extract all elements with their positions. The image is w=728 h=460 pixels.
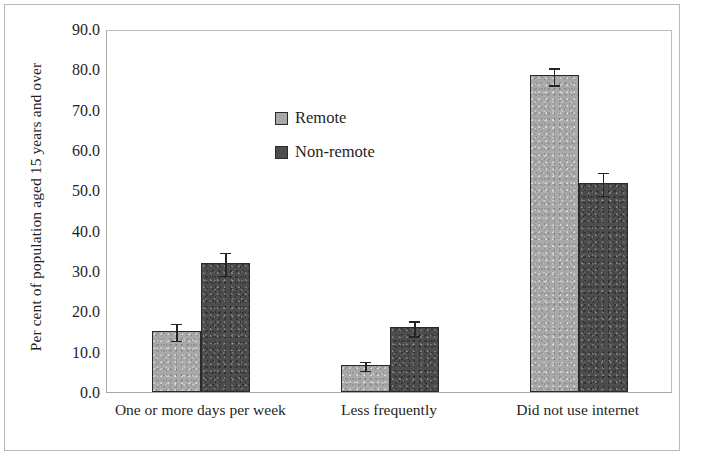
bars-layer: [107, 31, 671, 392]
error-bar-cap-top: [220, 253, 231, 255]
y-axis-tick-label: 60.0: [44, 143, 100, 159]
x-axis-tick-labels: One or more days per weekLess frequently…: [106, 399, 672, 459]
error-bar-cap-top: [409, 321, 420, 323]
y-axis-tick-label: 50.0: [44, 183, 100, 199]
legend-swatch-remote: [275, 112, 288, 125]
error-bar-cap-bottom: [549, 85, 560, 87]
x-axis-tick-label: Less frequently: [294, 399, 484, 420]
error-bar-cap-bottom: [360, 371, 371, 373]
legend-swatch-nonremote: [275, 146, 288, 159]
y-axis-tick-label: 40.0: [44, 224, 100, 240]
bar-remote: [530, 75, 579, 392]
legend-label: Non-remote: [295, 144, 375, 161]
y-axis-tick-label: 90.0: [44, 22, 100, 38]
error-bar-cap-top: [598, 173, 609, 175]
error-bar-cap-bottom: [220, 276, 231, 278]
error-bar-stem: [554, 68, 556, 87]
y-axis-tick-label: 80.0: [44, 62, 100, 78]
y-axis-tick-label: 70.0: [44, 103, 100, 119]
error-bar-cap-top: [171, 324, 182, 326]
error-bar-cap-bottom: [171, 341, 182, 343]
error-bar-cap-top: [549, 68, 560, 70]
error-bar-cap-bottom: [598, 196, 609, 198]
bar-nonremote: [201, 263, 250, 392]
chart-legend: RemoteNon-remote: [275, 105, 375, 173]
error-bar-stem: [225, 253, 227, 277]
legend-item: Remote: [275, 105, 375, 131]
legend-label: Remote: [295, 110, 346, 127]
error-bar-cap-bottom: [409, 336, 420, 338]
y-axis-tick-label: 0.0: [44, 385, 100, 401]
error-bar-stem: [603, 173, 605, 197]
chart-figure: Per cent of population aged 15 years and…: [0, 0, 728, 460]
x-axis-tick-label: Did not use internet: [483, 399, 673, 420]
y-axis-title: Per cent of population aged 15 years and…: [27, 17, 45, 397]
bar-nonremote: [579, 183, 628, 392]
x-axis-tick-label: One or more days per week: [105, 399, 295, 420]
y-axis-tick-labels: 0.010.020.030.040.050.060.070.080.090.0: [44, 0, 100, 460]
error-bar-cap-top: [360, 362, 371, 364]
plot-area: RemoteNon-remote: [106, 30, 672, 393]
y-axis-tick-label: 10.0: [44, 345, 100, 361]
error-bar-stem: [176, 324, 178, 343]
y-axis-tick-label: 30.0: [44, 264, 100, 280]
y-axis-tick-label: 20.0: [44, 304, 100, 320]
legend-item: Non-remote: [275, 139, 375, 165]
